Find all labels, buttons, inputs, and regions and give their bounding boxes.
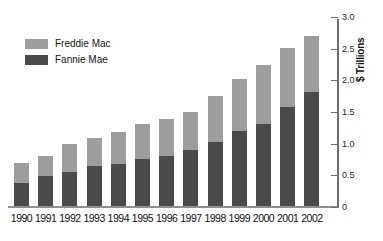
bar-segment-fannie-mae <box>208 142 223 208</box>
y-tick-label: 0.5 <box>342 171 355 180</box>
bar-group <box>135 124 150 208</box>
bar-segment-fannie-mae <box>111 164 126 208</box>
bar-segment-fannie-mae <box>280 107 295 208</box>
x-tick-label: 2001 <box>275 212 301 224</box>
bar-segment-fannie-mae <box>232 131 247 208</box>
bar-group <box>208 96 223 208</box>
bar-segment-fannie-mae <box>183 150 198 208</box>
legend-label: Freddie Mac <box>55 39 111 49</box>
bar-segment-freddie-mac <box>232 79 247 131</box>
x-tick-label: 1995 <box>130 212 156 224</box>
legend-item: Freddie Mac <box>25 36 111 52</box>
bar-group <box>280 48 295 208</box>
bar-segment-fannie-mae <box>62 172 77 208</box>
bar-group <box>87 138 102 208</box>
x-tick-label: 1994 <box>105 212 131 224</box>
x-axis-line <box>8 206 338 208</box>
bar-group <box>14 163 29 208</box>
y-tick-mark <box>331 49 338 50</box>
y-tick-label: 1.5 <box>342 108 355 117</box>
bar-segment-freddie-mac <box>208 96 223 142</box>
x-tick-label: 1999 <box>226 212 252 224</box>
bar-group <box>183 112 198 208</box>
bar-group <box>38 156 53 208</box>
legend-item: Fannie Mae <box>25 52 111 68</box>
bar-group <box>232 79 247 208</box>
x-tick-label: 1998 <box>202 212 228 224</box>
bar-group <box>256 65 271 208</box>
y-tick-mark <box>331 80 338 81</box>
x-tick-label: 1991 <box>33 212 59 224</box>
x-tick-label: 1992 <box>57 212 83 224</box>
chart-legend: Freddie MacFannie Mae <box>25 36 111 68</box>
legend-swatch <box>25 55 48 65</box>
x-tick-label: 1993 <box>81 212 107 224</box>
bar-segment-freddie-mac <box>38 156 53 176</box>
x-tick-label: 1990 <box>9 212 35 224</box>
y-tick-label: 2.0 <box>342 76 355 85</box>
bar-segment-freddie-mac <box>183 112 198 150</box>
y-tick-mark <box>331 144 338 145</box>
y-tick-label: 0 <box>342 203 347 212</box>
y-axis-title: $ Trillions <box>355 38 366 82</box>
legend-swatch <box>25 39 48 49</box>
bar-group <box>159 119 174 208</box>
bar-segment-freddie-mac <box>159 119 174 156</box>
chart-container: 00.51.01.52.02.53.0 $ Trillions 19901991… <box>0 0 383 241</box>
bar-group <box>111 132 126 208</box>
bar-group <box>304 36 319 208</box>
bar-segment-fannie-mae <box>304 92 319 208</box>
bar-segment-fannie-mae <box>159 156 174 208</box>
legend-label: Fannie Mae <box>55 55 108 65</box>
bar-segment-freddie-mac <box>135 124 150 159</box>
bar-segment-freddie-mac <box>280 48 295 107</box>
y-axis-line <box>337 19 339 208</box>
bar-segment-freddie-mac <box>87 138 102 167</box>
bar-segment-freddie-mac <box>304 36 319 92</box>
y-tick-mark <box>331 17 338 18</box>
y-tick-label: 1.0 <box>342 140 355 149</box>
y-tick-label: 2.5 <box>342 45 355 54</box>
bar-segment-freddie-mac <box>256 65 271 125</box>
bar-segment-freddie-mac <box>62 144 77 172</box>
bar-segment-fannie-mae <box>256 124 271 208</box>
bar-segment-fannie-mae <box>135 159 150 208</box>
y-tick-mark <box>331 175 338 176</box>
bar-segment-fannie-mae <box>14 183 29 208</box>
x-axis-labels: 1990199119921993199419951996199719981999… <box>8 212 338 228</box>
bar-segment-freddie-mac <box>14 163 29 183</box>
x-tick-label: 2000 <box>251 212 277 224</box>
bar-segment-fannie-mae <box>87 166 102 208</box>
x-tick-label: 2002 <box>299 212 325 224</box>
y-tick-label: 3.0 <box>342 13 355 22</box>
y-tick-mark <box>331 112 338 113</box>
x-tick-label: 1996 <box>154 212 180 224</box>
bar-group <box>62 144 77 208</box>
bar-segment-freddie-mac <box>111 132 126 164</box>
bar-segment-fannie-mae <box>38 176 53 208</box>
x-tick-label: 1997 <box>178 212 204 224</box>
y-tick-mark <box>331 207 338 208</box>
